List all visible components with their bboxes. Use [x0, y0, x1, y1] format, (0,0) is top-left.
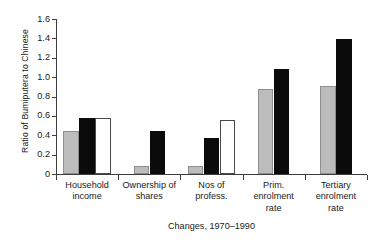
y-tick-label: 0.2	[37, 149, 50, 159]
plot-area: 00.20.40.60.81.01.21.41.6	[56, 19, 367, 174]
y-axis-title: Ratio of Bumiputera to Chinese	[20, 6, 30, 176]
category-label-4: Tertiaryenrolmentrate	[299, 180, 373, 214]
category-label-line: rate	[299, 203, 373, 214]
bar	[220, 120, 236, 174]
y-tick-label: 0	[45, 169, 50, 179]
y-tick-label: 0.4	[37, 130, 50, 140]
bar-chart-figure: Ratio of Bumiputera to Chinese 00.20.40.…	[0, 0, 373, 246]
y-tick-label: 1.2	[37, 52, 50, 62]
bar	[274, 69, 290, 174]
y-tick-label: 0.6	[37, 110, 50, 120]
category-label-line: enrolment	[299, 191, 373, 202]
y-tick-label: 1.0	[37, 72, 50, 82]
bar-group	[258, 19, 290, 174]
bar-group	[134, 19, 166, 174]
bar	[188, 166, 204, 174]
y-tick-label: 0.8	[37, 91, 50, 101]
bars-layer	[56, 19, 367, 174]
bar	[258, 89, 274, 174]
bar	[95, 118, 111, 174]
x-axis-title: Changes, 1970–1990	[56, 221, 367, 231]
bar	[150, 131, 166, 174]
bar-group	[320, 19, 352, 174]
category-label-line: Tertiary	[299, 180, 373, 191]
x-axis-category-labels: HouseholdincomeOwnership ofsharesNos ofp…	[56, 180, 367, 218]
bar	[63, 131, 79, 174]
bar	[204, 138, 220, 174]
bar	[336, 39, 352, 174]
y-tick-label: 1.6	[37, 14, 50, 24]
y-tick-label: 1.4	[37, 33, 50, 43]
bar	[134, 166, 150, 174]
bar	[320, 86, 336, 174]
bar-group	[63, 19, 111, 174]
bar	[79, 118, 95, 174]
bar-group	[188, 19, 236, 174]
x-axis-line	[56, 174, 367, 175]
